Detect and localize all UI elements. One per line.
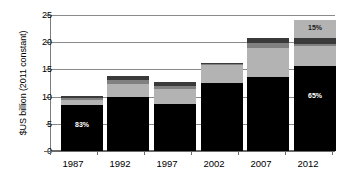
bar-2012-segment-3 bbox=[294, 44, 336, 46]
y-tick-label-20: 20 bbox=[12, 38, 52, 47]
x-tick-mark-4 bbox=[238, 151, 239, 155]
bar-1992-segment-1 bbox=[107, 97, 149, 151]
bar-1987[interactable]: 83% bbox=[61, 15, 103, 151]
x-tick-mark-1 bbox=[97, 151, 98, 155]
bar-2012-segment-2 bbox=[294, 46, 336, 66]
x-tick-mark-5 bbox=[285, 151, 286, 155]
y-tick-label-10: 10 bbox=[12, 93, 52, 102]
bar-1987-label-83: 83% bbox=[61, 121, 103, 129]
stacked-bar-chart: $US billion (2011 constant) 25 20 15 10 … bbox=[0, 0, 344, 187]
bar-2012-label-65: 65% bbox=[294, 92, 336, 100]
bars-layer: 83% bbox=[50, 15, 335, 151]
y-tick-label-25: 25 bbox=[12, 11, 52, 20]
bar-2007-segment-4 bbox=[247, 38, 289, 43]
bar-1987-segment-2 bbox=[61, 100, 103, 105]
x-tick-mark-0 bbox=[50, 151, 51, 155]
x-tick-mark-2 bbox=[144, 151, 145, 155]
bar-1987-segment-1: 83% bbox=[61, 105, 103, 151]
bar-1997-segment-2 bbox=[154, 89, 196, 104]
x-tick-mark-6 bbox=[332, 151, 333, 155]
bar-1992-segment-2 bbox=[107, 84, 149, 97]
bar-2012-segment-5: 15% bbox=[294, 20, 336, 38]
bar-1997-segment-1 bbox=[154, 104, 196, 151]
bar-2012-segment-4 bbox=[294, 38, 336, 44]
bar-2007-segment-1 bbox=[247, 77, 289, 152]
bar-2002-segment-2 bbox=[201, 65, 243, 82]
y-tick-label-15: 15 bbox=[12, 65, 52, 74]
bar-2007[interactable] bbox=[247, 15, 289, 151]
bar-2002-segment-3 bbox=[201, 64, 243, 65]
bar-2002[interactable] bbox=[201, 15, 243, 151]
bar-1987-segment-3 bbox=[61, 98, 103, 100]
bar-2012[interactable]: 65% 15% bbox=[294, 15, 336, 151]
bar-1992[interactable] bbox=[107, 15, 149, 151]
x-tick-label-1987: 1987 bbox=[50, 158, 96, 169]
bar-2012-segment-1: 65% bbox=[294, 66, 336, 151]
x-tick-label-2012: 2012 bbox=[285, 158, 331, 169]
bar-1987-segment-4 bbox=[61, 96, 103, 99]
bar-1997-segment-4 bbox=[154, 82, 196, 85]
bar-2007-segment-2 bbox=[247, 48, 289, 77]
bar-1997-segment-3 bbox=[154, 86, 196, 89]
y-tick-label-5: 5 bbox=[12, 120, 52, 129]
bar-2002-segment-1 bbox=[201, 83, 243, 152]
x-tick-label-2007: 2007 bbox=[238, 158, 284, 169]
x-axis-line bbox=[44, 151, 335, 152]
x-tick-mark-3 bbox=[191, 151, 192, 155]
bar-2002-segment-4 bbox=[201, 63, 243, 64]
y-axis-title: $US billion (2011 constant) bbox=[18, 8, 28, 158]
bar-2007-segment-3 bbox=[247, 43, 289, 47]
bar-2012-label-15: 15% bbox=[294, 24, 336, 32]
bar-1997[interactable] bbox=[154, 15, 196, 151]
bar-1992-segment-4 bbox=[107, 76, 149, 80]
x-tick-label-1997: 1997 bbox=[144, 158, 190, 169]
x-tick-label-2002: 2002 bbox=[191, 158, 237, 169]
bar-1992-segment-3 bbox=[107, 80, 149, 83]
x-tick-label-1992: 1992 bbox=[97, 158, 143, 169]
